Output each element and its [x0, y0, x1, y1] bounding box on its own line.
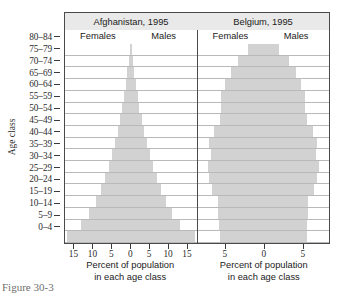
tick-mark: [54, 60, 60, 61]
pyramid-bar-row: [198, 114, 330, 126]
pyramid-bar-row: [198, 67, 330, 79]
tick-mark: [54, 131, 60, 132]
tick-mark: [54, 155, 60, 156]
age-class-tick: 5–9: [16, 209, 62, 221]
age-class-tick: 60–64: [16, 79, 62, 91]
age-class-tick: 45–49: [16, 114, 62, 126]
tick-mark: [54, 179, 60, 180]
age-class-tick: 65–69: [16, 67, 62, 79]
age-class-tick: 10–14: [16, 197, 62, 209]
gridline: [198, 125, 330, 126]
pyramid-bar-row: [198, 184, 330, 196]
gridline: [65, 230, 197, 231]
tick-mark: [54, 226, 60, 227]
x-tick-label: 5: [300, 249, 305, 259]
population-pyramid-figure: Age class 80–8475–7970–7465–6960–6455–59…: [0, 0, 339, 295]
age-class-label: 30–34: [29, 151, 52, 161]
pyramid-bar-row: [65, 161, 197, 173]
panel-title: Belgium, 1995: [197, 13, 329, 30]
gridline: [65, 137, 197, 138]
pyramid-bar-row: [198, 126, 330, 138]
age-class-label: 50–54: [29, 103, 52, 113]
gridline: [65, 125, 197, 126]
gridline: [198, 207, 330, 208]
age-class-label: 35–39: [29, 139, 52, 149]
age-class-tick: 30–34: [16, 150, 62, 162]
gridline: [65, 55, 197, 56]
age-class-label: 75–79: [29, 44, 52, 54]
x-tick-label: 5: [222, 249, 227, 259]
x-tick-label: 0: [261, 249, 266, 259]
gridline: [65, 90, 197, 91]
pyramid-bar-row: [198, 91, 330, 103]
gridline: [198, 148, 330, 149]
gridline: [65, 172, 197, 173]
tick-mark: [54, 48, 60, 49]
age-class-label: 55–59: [29, 91, 52, 101]
gridline: [65, 242, 197, 243]
pyramid-bar-row: [198, 196, 330, 208]
age-class-tick: 70–74: [16, 55, 62, 67]
age-class-tick: 50–54: [16, 102, 62, 114]
age-class-label: 60–64: [29, 79, 52, 89]
tick-mark: [54, 120, 60, 121]
age-class-label: 45–49: [29, 115, 52, 125]
pyramid-bar-row: [198, 220, 330, 232]
gridline: [198, 195, 330, 196]
gridline: [198, 90, 330, 91]
pyramid-bar-row: [198, 56, 330, 68]
tick-mark: [54, 215, 60, 216]
pyramid-bar-row: [65, 196, 197, 208]
x-axis-title: Percent of populationin each age class: [60, 260, 200, 283]
age-class-tick: 25–29: [16, 162, 62, 174]
tick-mark: [54, 84, 60, 85]
age-class-label: 40–44: [29, 127, 52, 137]
gridline: [65, 148, 197, 149]
gridline: [198, 160, 330, 161]
gridline: [198, 102, 330, 103]
age-class-label: 15–19: [29, 186, 52, 196]
age-class-tick: 15–19: [16, 185, 62, 197]
pyramid-bar-row: [198, 208, 330, 220]
age-class-label: 0–4: [38, 222, 52, 232]
gridline: [198, 113, 330, 114]
gridline: [198, 66, 330, 67]
pyramid-panel: FemalesMales: [197, 30, 330, 243]
gridline: [65, 113, 197, 114]
gridline: [198, 137, 330, 138]
pyramid-bar-row: [65, 184, 197, 196]
panel-title-band: Afghanistan, 1995Belgium, 1995: [65, 13, 329, 30]
x-axis-title-line1: Percent of population: [60, 260, 200, 272]
x-axis-title-line2: in each age class: [194, 272, 334, 284]
age-class-label: 5–9: [38, 210, 52, 220]
pyramid-bar-row: [65, 67, 197, 79]
tick-mark: [54, 191, 60, 192]
gridline: [65, 207, 197, 208]
gridline: [65, 66, 197, 67]
gridline: [65, 102, 197, 103]
age-class-tick: 55–59: [16, 90, 62, 102]
gridline: [198, 230, 330, 231]
x-axis: 505: [0, 244, 339, 252]
age-class-tick-labels: 80–8475–7970–7465–6960–6455–5950–5445–49…: [16, 31, 62, 233]
pyramid-bar-row: [65, 138, 197, 150]
figure-caption: Figure 30-3: [2, 281, 54, 293]
pyramid-bar-row: [65, 91, 197, 103]
age-class-label: 80–84: [29, 32, 52, 42]
gridline: [65, 78, 197, 79]
age-class-label: 70–74: [29, 56, 52, 66]
tick-mark: [54, 167, 60, 168]
gridline: [65, 183, 197, 184]
gridline: [198, 78, 330, 79]
pyramid-bar-row: [198, 103, 330, 115]
gridline: [65, 219, 197, 220]
pyramid-bar-row: [198, 161, 330, 173]
plot-frame: Afghanistan, 1995Belgium, 1995 FemalesMa…: [64, 12, 330, 244]
pyramid-bar-row: [65, 208, 197, 220]
panels-container: FemalesMalesFemalesMales: [65, 30, 329, 243]
pyramid-bar-row: [198, 149, 330, 161]
pyramid-bar-row: [65, 44, 197, 56]
bars-area: [198, 44, 330, 243]
pyramid-bar-row: [65, 103, 197, 115]
gridline: [198, 172, 330, 173]
